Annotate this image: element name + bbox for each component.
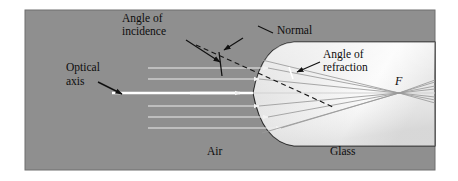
air-region-label: Air bbox=[207, 145, 222, 158]
angle-of-incidence-label-line2: incidence bbox=[122, 25, 166, 38]
diagram-canvas bbox=[0, 0, 458, 181]
focal-point-label: F bbox=[395, 75, 402, 88]
angle-of-incidence-label-line1: Angle of bbox=[122, 12, 163, 25]
normal-label: Normal bbox=[277, 24, 312, 37]
glass-region-label: Glass bbox=[330, 145, 356, 158]
physics-refraction-figure: Angle of incidence Normal Angle of refra… bbox=[0, 0, 458, 181]
angle-of-refraction-label-line2: refraction bbox=[323, 61, 368, 74]
optical-axis-label-line1: Optical bbox=[66, 61, 100, 74]
angle-of-refraction-label-line1: Angle of bbox=[323, 48, 364, 61]
optical-axis-label-line2: axis bbox=[66, 75, 85, 88]
